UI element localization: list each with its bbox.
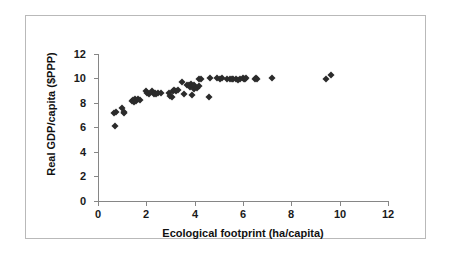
y-axis-title: Real GDP/capita ($PPP) <box>45 19 57 209</box>
y-tick-label: 6 <box>64 121 86 133</box>
y-tick-label: 2 <box>64 170 86 182</box>
data-point <box>205 94 212 101</box>
x-tick-mark <box>388 202 389 206</box>
data-point <box>268 74 275 81</box>
data-point <box>121 108 128 115</box>
y-tick-label: 10 <box>64 72 86 84</box>
x-tick-mark <box>291 202 292 206</box>
x-tick-label: 10 <box>328 208 352 220</box>
x-tick-label: 4 <box>183 208 207 220</box>
x-tick-label: 8 <box>279 208 303 220</box>
y-tick-label: 8 <box>64 97 86 109</box>
scatter-series <box>99 54 389 201</box>
x-axis-title: Ecological footprint (ha/capita) <box>98 227 388 239</box>
x-tick-label: 12 <box>376 208 400 220</box>
data-point <box>180 91 187 98</box>
y-tick-label: 4 <box>64 146 86 158</box>
chart-frame: 12 10 8 6 4 2 0 0 2 4 6 8 10 12 <box>25 15 426 239</box>
plot-area <box>98 54 389 202</box>
chart-figure: 12 10 8 6 4 2 0 0 2 4 6 8 10 12 <box>0 0 451 256</box>
x-tick-mark <box>340 202 341 206</box>
x-tick-mark <box>195 202 196 206</box>
x-tick-label: 2 <box>134 208 158 220</box>
data-point <box>188 91 195 98</box>
data-point <box>112 122 119 129</box>
x-tick-label: 6 <box>231 208 255 220</box>
x-tick-mark <box>146 202 147 206</box>
y-tick-label: 0 <box>64 195 86 207</box>
data-point <box>243 74 250 81</box>
x-tick-mark <box>98 202 99 206</box>
y-tick-label: 12 <box>64 48 86 60</box>
x-tick-mark <box>243 202 244 206</box>
x-tick-label: 0 <box>86 208 110 220</box>
